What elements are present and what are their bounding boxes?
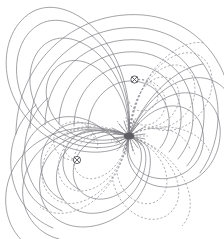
- conductor-lower-left[interactable]: [73, 156, 80, 163]
- neutral-point-marker: [124, 133, 134, 140]
- flux-lines-outer-top: [16, 15, 224, 173]
- field-plot-canvas: [0, 0, 224, 239]
- conductor-upper-right[interactable]: [131, 76, 138, 83]
- potential-lines-lower: [40, 122, 129, 214]
- field-plot-figure: [0, 0, 224, 239]
